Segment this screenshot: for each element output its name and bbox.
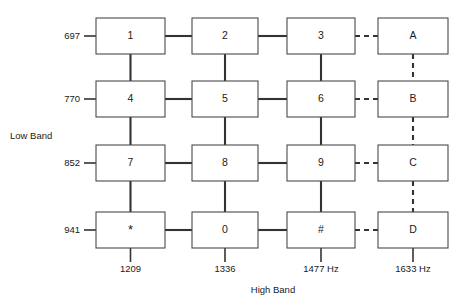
key-label: 8 bbox=[222, 156, 228, 168]
high-band-caption: High Band bbox=[251, 284, 295, 295]
key-label: B bbox=[409, 92, 416, 104]
key-box-a[interactable]: A bbox=[378, 18, 448, 54]
key-box-7[interactable]: 7 bbox=[96, 145, 165, 181]
high-band-frequency-label-2: 1477 Hz bbox=[303, 263, 339, 274]
key-box-b[interactable]: B bbox=[378, 81, 448, 117]
key-box-d[interactable]: D bbox=[378, 212, 448, 248]
key-box-1[interactable]: 1 bbox=[96, 18, 165, 54]
key-label: D bbox=[409, 223, 417, 235]
key-box-6[interactable]: 6 bbox=[287, 81, 355, 117]
key-label: 3 bbox=[318, 29, 324, 41]
low-band-frequency-label-3: 941 bbox=[64, 224, 80, 235]
key-box-star[interactable]: * bbox=[96, 212, 165, 248]
key-label: A bbox=[409, 29, 416, 41]
high-band-frequency-label-1: 1336 bbox=[214, 263, 235, 274]
key-label: 1 bbox=[128, 29, 134, 41]
key-box-8[interactable]: 8 bbox=[192, 145, 258, 181]
high-band-frequency-label-3: 1633 Hz bbox=[395, 263, 431, 274]
high-band-frequency-label-0: 1209 bbox=[120, 263, 141, 274]
key-label: 6 bbox=[318, 92, 324, 104]
dtmf-keypad-diagram: 123A456B789C*0#D 69777085294112091336147… bbox=[0, 0, 455, 304]
key-label: # bbox=[318, 223, 324, 235]
low-band-frequency-label-1: 770 bbox=[64, 93, 80, 104]
key-box-4[interactable]: 4 bbox=[96, 81, 165, 117]
key-label: 7 bbox=[128, 156, 134, 168]
key-box-0[interactable]: 0 bbox=[192, 212, 258, 248]
key-label: 5 bbox=[222, 92, 228, 104]
key-box-c[interactable]: C bbox=[378, 145, 448, 181]
low-band-frequency-label-0: 697 bbox=[64, 30, 80, 41]
key-box-hash[interactable]: # bbox=[287, 212, 355, 248]
key-box-9[interactable]: 9 bbox=[287, 145, 355, 181]
connector-layer bbox=[131, 36, 414, 230]
key-label: 9 bbox=[318, 156, 324, 168]
key-box-layer: 123A456B789C*0#D bbox=[96, 18, 448, 248]
key-box-2[interactable]: 2 bbox=[192, 18, 258, 54]
diagram-canvas: 123A456B789C*0#D 69777085294112091336147… bbox=[0, 0, 455, 304]
low-band-caption: Low Band bbox=[10, 130, 52, 141]
key-box-3[interactable]: 3 bbox=[287, 18, 355, 54]
key-label: 0 bbox=[222, 223, 228, 235]
key-label: * bbox=[128, 222, 133, 237]
key-label: 2 bbox=[222, 29, 228, 41]
key-label: 4 bbox=[128, 92, 134, 104]
key-label: C bbox=[409, 156, 417, 168]
low-band-frequency-label-2: 852 bbox=[64, 157, 80, 168]
key-box-5[interactable]: 5 bbox=[192, 81, 258, 117]
